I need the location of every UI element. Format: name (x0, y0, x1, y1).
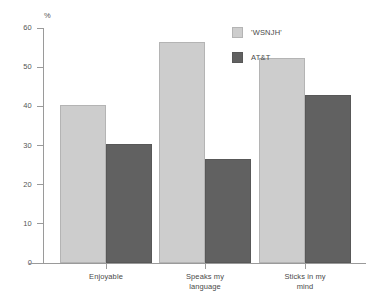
legend-label-series-0: 'WSNJH' (251, 28, 282, 37)
bar (259, 58, 305, 263)
legend-swatch-icon-series-0 (232, 27, 243, 38)
bars-layer (0, 0, 366, 304)
bar (106, 144, 152, 263)
legend: 'WSNJH' AT&T (232, 26, 282, 76)
legend-item-series-1[interactable]: AT&T (232, 51, 282, 64)
bar (60, 105, 106, 263)
legend-item-series-0[interactable]: 'WSNJH' (232, 26, 282, 39)
bar (305, 95, 351, 263)
legend-swatch-icon-series-1 (232, 52, 243, 63)
bar (159, 42, 205, 263)
legend-label-series-1: AT&T (251, 53, 270, 62)
bar-chart: % 0102030405060 EnjoyableSpeaks mylangua… (0, 0, 366, 304)
bar (205, 159, 251, 263)
